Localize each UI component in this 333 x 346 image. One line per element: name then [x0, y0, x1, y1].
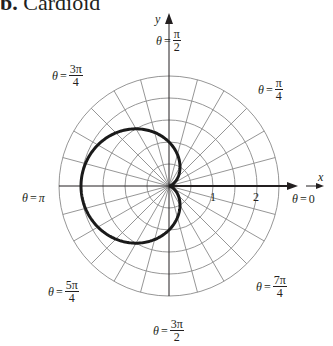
angle-fraction: 3π 4: [69, 63, 83, 88]
grid-radial-line: [91, 108, 169, 186]
theta-symbol: θ: [256, 281, 262, 293]
angle-label-pi-over-2: θ = π 2: [156, 28, 181, 53]
angle-label-0: θ = 0: [292, 193, 315, 205]
x-axis-arrow-icon: [287, 182, 298, 190]
theta-symbol: θ: [153, 325, 159, 337]
theta-symbol: θ: [52, 70, 58, 82]
radial-tick-2: 2: [253, 190, 259, 205]
grid-radial-line: [169, 158, 275, 186]
angle-label-3pi-over-4: θ = 3π 4: [52, 63, 83, 88]
radial-tick-1: 1: [210, 190, 216, 205]
equals-sign: =: [30, 192, 37, 204]
fraction-denominator: 4: [73, 76, 79, 88]
equals-sign: =: [266, 84, 273, 96]
axes: [59, 13, 324, 296]
equals-sign: =: [60, 70, 67, 82]
grid-radial-line: [169, 131, 264, 186]
fraction-denominator: 4: [276, 90, 282, 102]
equals-sign: =: [264, 281, 271, 293]
theta-symbol: θ: [22, 192, 28, 204]
angle-value: 0: [309, 193, 315, 205]
grid-radial-line: [169, 108, 247, 186]
angle-fraction: π 4: [275, 77, 283, 102]
grid-radial-line: [63, 158, 169, 186]
grid-radial-line: [169, 186, 264, 241]
equals-sign: =: [161, 325, 168, 337]
grid-radial-line: [114, 186, 169, 281]
fraction-denominator: 2: [174, 41, 180, 53]
grid-radial-line: [91, 186, 169, 264]
angle-label-5pi-over-4: θ = 5π 4: [48, 279, 79, 304]
theta-symbol: θ: [292, 193, 298, 205]
equals-sign: =: [164, 35, 171, 47]
angle-fraction: 7π 4: [273, 274, 287, 299]
angle-label-3pi-over-2: θ = 3π 2: [153, 318, 184, 343]
theta-symbol: θ: [156, 35, 162, 47]
angle-label-7pi-over-4: θ = 7π 4: [256, 274, 287, 299]
angle-fraction: π 2: [173, 28, 181, 53]
angle-fraction: 5π 4: [65, 279, 79, 304]
y-axis-arrow-icon: [165, 13, 173, 24]
angle-label-pi-over-4: θ = π 4: [258, 77, 283, 102]
theta-symbol: θ: [258, 84, 264, 96]
grid-radial-line: [169, 80, 197, 186]
equals-sign: =: [300, 193, 307, 205]
equals-sign: =: [56, 286, 63, 298]
grid-radial-line: [169, 91, 224, 186]
angle-label-pi: θ = π: [22, 192, 45, 204]
grid-radial-line: [63, 186, 169, 214]
grid-radial-line: [169, 186, 197, 292]
fraction-denominator: 2: [174, 331, 180, 343]
angle-value: π: [39, 192, 45, 204]
grid-radial-line: [169, 186, 275, 214]
theta-symbol: θ: [48, 286, 54, 298]
angle-fraction: 3π 2: [170, 318, 184, 343]
fraction-denominator: 4: [277, 287, 283, 299]
y-axis-label: y: [155, 12, 160, 27]
grid-radial-line: [114, 91, 169, 186]
fraction-denominator: 4: [69, 292, 75, 304]
x-axis-label: x: [318, 170, 323, 185]
grid-radial-line: [169, 186, 247, 264]
